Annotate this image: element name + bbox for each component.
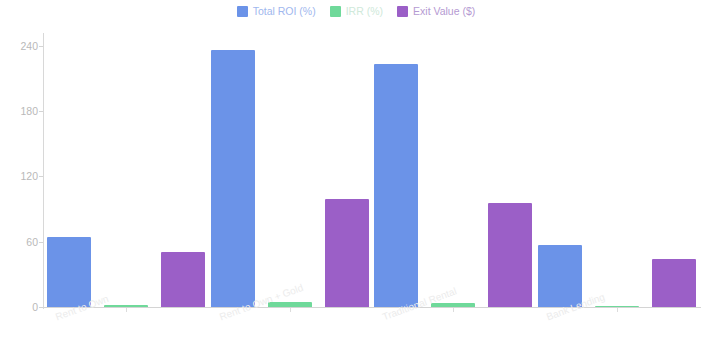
legend-label-irr: IRR (%) bbox=[346, 6, 383, 17]
bar-group bbox=[47, 35, 205, 307]
legend-entry-total-roi[interactable]: Total ROI (%) bbox=[237, 6, 316, 17]
legend-swatch-exit-value bbox=[397, 6, 408, 17]
legend-label-exit-value: Exit Value ($) bbox=[413, 6, 475, 17]
legend-swatch-irr bbox=[330, 6, 341, 17]
bar[interactable] bbox=[161, 252, 205, 307]
x-axis-tick-mark bbox=[617, 308, 618, 312]
y-axis-tick-label: 120 bbox=[20, 170, 38, 182]
bar-group bbox=[211, 35, 369, 307]
bar[interactable] bbox=[538, 245, 582, 307]
bar[interactable] bbox=[374, 64, 418, 307]
y-axis-tick-mark bbox=[39, 307, 43, 308]
x-axis-tick-mark bbox=[290, 308, 291, 312]
y-axis-tick-label: 0 bbox=[32, 301, 38, 313]
x-axis-tick-mark bbox=[126, 308, 127, 312]
y-axis-tick-label: 180 bbox=[20, 105, 38, 117]
y-axis-tick-labels: 060120180240 bbox=[0, 0, 38, 353]
chart-legend: Total ROI (%) IRR (%) Exit Value ($) bbox=[0, 2, 712, 20]
y-axis-tick-mark bbox=[39, 176, 43, 177]
legend-entry-irr[interactable]: IRR (%) bbox=[330, 6, 383, 17]
x-axis-tick-mark bbox=[453, 308, 454, 312]
bar[interactable] bbox=[431, 303, 475, 307]
y-axis-tick-mark bbox=[39, 46, 43, 47]
bar[interactable] bbox=[488, 203, 532, 307]
bar-group bbox=[374, 35, 532, 307]
plot-area bbox=[44, 35, 699, 307]
bar[interactable] bbox=[211, 50, 255, 307]
y-axis-tick-mark bbox=[39, 242, 43, 243]
y-axis-tick-label: 240 bbox=[20, 40, 38, 52]
bar[interactable] bbox=[104, 305, 148, 307]
y-axis-tick-label: 60 bbox=[26, 236, 38, 248]
legend-label-total-roi: Total ROI (%) bbox=[253, 6, 316, 17]
bar-group bbox=[538, 35, 696, 307]
legend-entry-exit-value[interactable]: Exit Value ($) bbox=[397, 6, 475, 17]
x-axis-line bbox=[43, 307, 701, 308]
y-axis-tick-mark bbox=[39, 111, 43, 112]
bar[interactable] bbox=[47, 237, 91, 307]
bar[interactable] bbox=[325, 199, 369, 307]
bar[interactable] bbox=[652, 259, 696, 307]
bar-chart: Total ROI (%) IRR (%) Exit Value ($) 060… bbox=[0, 0, 712, 353]
legend-swatch-total-roi bbox=[237, 6, 248, 17]
bar[interactable] bbox=[595, 306, 639, 308]
